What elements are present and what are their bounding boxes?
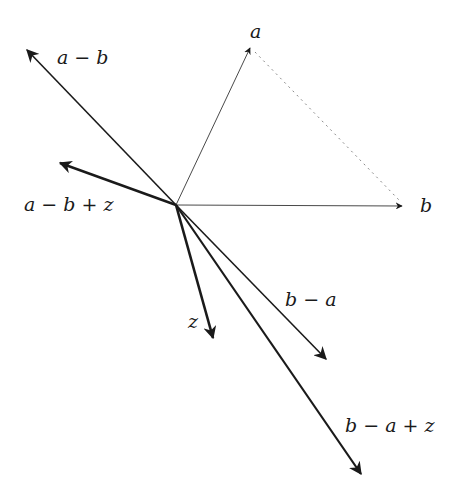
dashed-difference-line xyxy=(255,52,399,200)
label-a-minus-b-plus-z: a − b + z xyxy=(24,195,114,214)
vector-a-arrow xyxy=(176,48,250,205)
vector-b-a+z-arrow xyxy=(176,205,361,474)
label-a: a xyxy=(250,22,261,41)
label-a-minus-b: a − b xyxy=(57,48,109,67)
vector-b-arrow xyxy=(176,205,402,206)
vector-a-b-arrow xyxy=(27,50,176,205)
label-b: b xyxy=(420,196,432,215)
label-b-minus-a: b − a xyxy=(285,290,337,309)
label-b-minus-a-plus-z: b − a + z xyxy=(345,416,435,435)
vector-diagram: a b a − b a − b + z z b − a b − a + z xyxy=(0,0,462,500)
label-z: z xyxy=(188,312,198,331)
